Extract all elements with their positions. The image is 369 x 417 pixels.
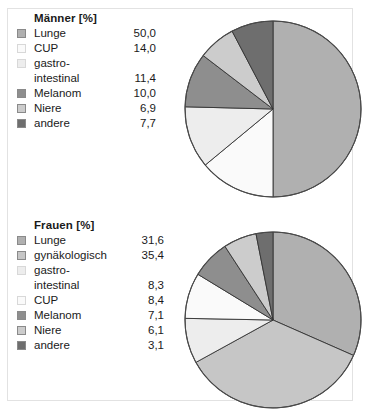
legend-swatch-melanom	[17, 89, 26, 98]
legend-swatch-gastrointestinal	[17, 59, 26, 68]
legend-label-lunge: Lunge	[34, 26, 66, 41]
legend-item-cup[interactable]: CUP 14,0	[16, 41, 176, 56]
pie-chart-maenner[interactable]	[182, 18, 364, 200]
legend-item-gynaekologisch[interactable]: gynäkologisch 35,4	[16, 248, 176, 263]
legend-item-cup-f[interactable]: CUP 8,4	[16, 293, 176, 308]
legend-label-gastrointestinal-f-line2: intestinal	[34, 278, 79, 293]
legend-label-lunge-f: Lunge	[34, 233, 66, 248]
legend-item-lunge-f[interactable]: Lunge 31,6	[16, 233, 176, 248]
legend-label-gastrointestinal-line1: gastro-	[34, 56, 70, 71]
legend-value-lunge-f: 31,6	[120, 233, 164, 248]
legend-swatch-lunge	[17, 29, 26, 38]
legend-value-andere-f: 3,1	[120, 338, 164, 353]
legend-value-gastrointestinal: 11,4	[112, 71, 156, 86]
legend-value-niere: 6,9	[112, 101, 156, 116]
legend-value-andere: 7,7	[112, 116, 156, 131]
legend-swatch-lunge-f	[17, 236, 26, 245]
legend-value-gastrointestinal-f: 8,3	[120, 278, 164, 293]
chart-frauen: Frauen [%] Lunge 31,6 gynäkologisch 35,4…	[0, 207, 369, 417]
legend-item-andere[interactable]: andere 7,7	[16, 116, 176, 131]
legend-swatch-cup	[17, 44, 26, 53]
legend-swatch-cup-f	[17, 296, 26, 305]
legend-value-melanom: 10,0	[112, 86, 156, 101]
chart-title-maenner: Männer [%]	[34, 12, 176, 24]
chart-title-frauen: Frauen [%]	[34, 219, 176, 231]
legend-value-niere-f: 6,1	[120, 323, 164, 338]
pie-svg-frauen	[182, 229, 364, 411]
legend-item-niere-f[interactable]: Niere 6,1	[16, 323, 176, 338]
legend-item-gastrointestinal-f-line2[interactable]: intestinal 8,3	[16, 278, 176, 293]
legend-value-cup-f: 8,4	[120, 293, 164, 308]
legend-item-gastrointestinal-line1[interactable]: gastro-	[16, 56, 176, 71]
legend-label-andere-f: andere	[34, 338, 70, 353]
legend-swatch-niere	[17, 104, 26, 113]
legend-value-lunge: 50,0	[112, 26, 156, 41]
legend-item-gastrointestinal-f-line1[interactable]: gastro-	[16, 263, 176, 278]
chart-maenner: Männer [%] Lunge 50,0 CUP 14,0 gastro- i…	[0, 0, 369, 210]
pie-slice-lunge[interactable]	[273, 21, 361, 197]
legend-label-gynaekologisch: gynäkologisch	[34, 248, 107, 263]
legend-label-cup: CUP	[34, 41, 58, 56]
legend-item-melanom-f[interactable]: Melanom 7,1	[16, 308, 176, 323]
legend-item-melanom[interactable]: Melanom 10,0	[16, 86, 176, 101]
legend-item-andere-f[interactable]: andere 3,1	[16, 338, 176, 353]
legend-item-lunge[interactable]: Lunge 50,0	[16, 26, 176, 41]
legend-frauen: Frauen [%] Lunge 31,6 gynäkologisch 35,4…	[16, 219, 176, 353]
legend-swatch-gastrointestinal-f	[17, 266, 26, 275]
legend-value-melanom-f: 7,1	[120, 308, 164, 323]
legend-swatch-andere-f	[17, 341, 26, 350]
legend-item-gastrointestinal-line2[interactable]: intestinal 11,4	[16, 71, 176, 86]
legend-swatch-andere	[17, 119, 26, 128]
legend-label-cup-f: CUP	[34, 293, 58, 308]
legend-swatch-niere-f	[17, 326, 26, 335]
pie-chart-frauen[interactable]	[182, 229, 364, 411]
legend-swatch-gynaekologisch	[17, 251, 26, 260]
legend-value-cup: 14,0	[112, 41, 156, 56]
legend-value-gynaekologisch: 35,4	[120, 248, 164, 263]
legend-item-niere[interactable]: Niere 6,9	[16, 101, 176, 116]
legend-label-niere-f: Niere	[34, 323, 61, 338]
legend-label-gastrointestinal-line2: intestinal	[34, 71, 79, 86]
legend-maenner: Männer [%] Lunge 50,0 CUP 14,0 gastro- i…	[16, 12, 176, 131]
pie-svg-maenner	[182, 18, 364, 200]
legend-swatch-melanom-f	[17, 311, 26, 320]
legend-label-niere: Niere	[34, 101, 61, 116]
legend-label-melanom-f: Melanom	[34, 308, 81, 323]
legend-label-gastrointestinal-f-line1: gastro-	[34, 263, 70, 278]
legend-label-melanom: Melanom	[34, 86, 81, 101]
legend-label-andere: andere	[34, 116, 70, 131]
figure-root: Männer [%] Lunge 50,0 CUP 14,0 gastro- i…	[0, 0, 369, 417]
